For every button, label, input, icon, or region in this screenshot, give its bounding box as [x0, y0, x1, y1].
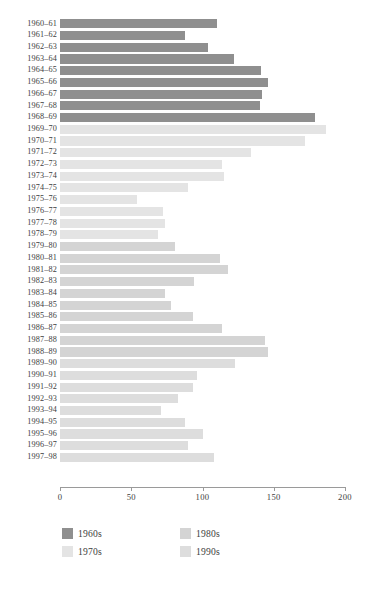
legend-item-1990s[interactable]: 1990s [180, 546, 220, 557]
row-label: 1986–87 [0, 322, 57, 334]
row-label: 1987–88 [0, 334, 57, 346]
chart-row: 1988–89 [0, 346, 377, 358]
chart-row: 1961–62 [0, 30, 377, 42]
bar-track [60, 90, 360, 99]
bar-track [60, 289, 360, 298]
bar [60, 160, 222, 169]
bar-track [60, 254, 360, 263]
x-axis-tick-label: 0 [58, 492, 63, 502]
chart-row: 1979–80 [0, 241, 377, 253]
chart-row: 1991–92 [0, 381, 377, 393]
bar-track [60, 113, 360, 122]
legend-swatch-icon [62, 546, 73, 557]
bar-track [60, 301, 360, 310]
chart-row: 1973–74 [0, 170, 377, 182]
chart-row: 1984–85 [0, 299, 377, 311]
bar-track [60, 441, 360, 450]
bar [60, 54, 234, 63]
row-label: 1971–72 [0, 146, 57, 158]
bar [60, 418, 185, 427]
x-axis: 050100150200 [0, 487, 377, 513]
bar [60, 101, 260, 110]
x-axis-tick [203, 487, 204, 491]
bar [60, 301, 171, 310]
x-axis-tick-label: 200 [338, 492, 352, 502]
chart-row: 1960–61 [0, 18, 377, 30]
row-label: 1978–79 [0, 228, 57, 240]
bar [60, 289, 165, 298]
chart-row: 1994–95 [0, 416, 377, 428]
bar [60, 277, 194, 286]
row-label: 1985–86 [0, 310, 57, 322]
legend-item-1960s[interactable]: 1960s [62, 528, 102, 539]
row-label: 1975–76 [0, 193, 57, 205]
row-label: 1967–68 [0, 100, 57, 112]
chart-row: 1993–94 [0, 405, 377, 417]
row-label: 1988–89 [0, 346, 57, 358]
bar-track [60, 183, 360, 192]
bar-track [60, 383, 360, 392]
x-axis-tick [345, 487, 346, 491]
bar-track [60, 394, 360, 403]
legend-swatch-icon [62, 528, 73, 539]
chart-row: 1992–93 [0, 393, 377, 405]
bar-track [60, 453, 360, 462]
bar [60, 66, 261, 75]
row-label: 1997–98 [0, 451, 57, 463]
row-label: 1972–73 [0, 158, 57, 170]
row-label: 1992–93 [0, 393, 57, 405]
bar [60, 359, 235, 368]
bar-track [60, 31, 360, 40]
bar [60, 371, 197, 380]
legend-label: 1980s [196, 528, 220, 539]
row-label: 1993–94 [0, 404, 57, 416]
bar [60, 43, 208, 52]
chart-row: 1968–69 [0, 112, 377, 124]
legend-label: 1960s [78, 528, 102, 539]
chart-row: 1995–96 [0, 428, 377, 440]
bar [60, 125, 326, 134]
bar [60, 207, 163, 216]
bar-track [60, 265, 360, 274]
bar-track [60, 195, 360, 204]
x-axis-tick [274, 487, 275, 491]
legend-item-1970s[interactable]: 1970s [62, 546, 102, 557]
row-label: 1964–65 [0, 64, 57, 76]
bar-track [60, 136, 360, 145]
chart-row: 1985–86 [0, 311, 377, 323]
chart-row: 1974–75 [0, 182, 377, 194]
bar [60, 429, 203, 438]
chart-row: 1978–79 [0, 229, 377, 241]
chart-row: 1989–90 [0, 358, 377, 370]
row-label: 1977–78 [0, 217, 57, 229]
chart-row: 1983–84 [0, 288, 377, 300]
bar-track [60, 418, 360, 427]
row-label: 1979–80 [0, 240, 57, 252]
chart-row: 1990–91 [0, 370, 377, 382]
row-label: 1995–96 [0, 428, 57, 440]
chart-row: 1965–66 [0, 77, 377, 89]
bar-track [60, 429, 360, 438]
bar [60, 441, 188, 450]
bar-track [60, 347, 360, 356]
row-label: 1974–75 [0, 182, 57, 194]
bar-track [60, 172, 360, 181]
bar [60, 230, 158, 239]
bar-track [60, 277, 360, 286]
bar-track [60, 336, 360, 345]
bar [60, 254, 220, 263]
legend-swatch-icon [180, 546, 191, 557]
row-label: 1989–90 [0, 357, 57, 369]
row-label: 1991–92 [0, 381, 57, 393]
legend-label: 1970s [78, 546, 102, 557]
bar-track [60, 66, 360, 75]
legend-item-1980s[interactable]: 1980s [180, 528, 220, 539]
bar [60, 242, 175, 251]
bar [60, 312, 193, 321]
legend-swatch-icon [180, 528, 191, 539]
row-label: 1980–81 [0, 252, 57, 264]
bar [60, 172, 224, 181]
bar-track [60, 207, 360, 216]
row-label: 1970–71 [0, 135, 57, 147]
chart-row: 1972–73 [0, 159, 377, 171]
